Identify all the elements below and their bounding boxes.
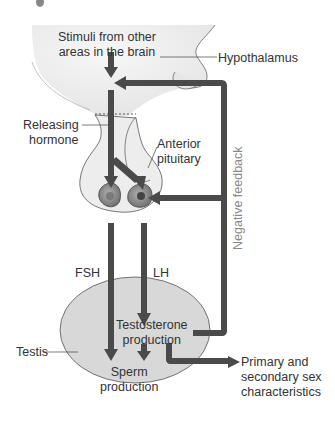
stimuli-label: Stimuli from other areas in the brain — [58, 30, 156, 60]
characteristics-label: Primary and secondary sex characteristic… — [241, 355, 322, 400]
testosterone-line-2: production — [116, 333, 188, 348]
corner-blob — [36, 0, 44, 7]
negative-feedback-label: Negative feedback — [231, 146, 245, 250]
releasing-line-2: hormone — [23, 133, 79, 148]
characteristics-line-1: Primary and — [241, 355, 322, 370]
stimuli-line-2: areas in the brain — [58, 45, 156, 60]
anterior-line-1: Anterior — [157, 137, 201, 152]
hypothalamus-label: Hypothalamus — [218, 51, 298, 66]
anterior-pituitary-label: Anterior pituitary — [157, 137, 201, 167]
cell-nucleus-2 — [137, 192, 145, 200]
fsh-label: FSH — [75, 266, 100, 281]
anterior-line-2: pituitary — [157, 152, 201, 167]
testis-label: Testis — [16, 345, 48, 360]
releasing-line-1: Releasing — [23, 118, 79, 133]
sperm-production-label: Sperm production — [100, 365, 158, 395]
characteristics-line-2: secondary sex — [241, 370, 322, 385]
sperm-line-2: production — [100, 380, 158, 395]
testosterone-line-1: Testosterone — [116, 318, 188, 333]
feedback-pituitary-shaft — [158, 195, 224, 201]
testosterone-production-label: Testosterone production — [116, 318, 188, 348]
lh-label: LH — [153, 266, 169, 281]
characteristics-arrow-head — [228, 356, 240, 368]
releasing-hormone-label: Releasing hormone — [23, 118, 79, 148]
releasing-hormone-arrow-shaft — [108, 90, 114, 178]
lh-arrow-shaft — [141, 223, 147, 315]
fsh-arrow-shaft — [108, 223, 114, 350]
characteristics-line-3: characteristics — [241, 385, 322, 400]
cell-nucleus-1 — [106, 192, 114, 200]
stimuli-line-1: Stimuli from other — [58, 30, 156, 45]
sperm-line-1: Sperm — [100, 365, 158, 380]
